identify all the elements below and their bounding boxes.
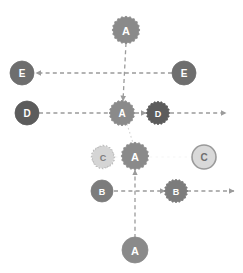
- node-a-center[interactable]: A: [109, 100, 135, 126]
- node-c-solid[interactable]: C: [192, 145, 216, 169]
- node-e-right[interactable]: E: [172, 61, 196, 85]
- node-shape-b-right: [164, 179, 188, 203]
- node-shape-a-bottom: [122, 237, 148, 263]
- edges-layer: [36, 43, 234, 238]
- node-b-right[interactable]: B: [164, 179, 188, 203]
- node-shape-b-left: [91, 180, 113, 202]
- node-shape-d-right: [146, 101, 170, 125]
- node-shape-e-left: [10, 61, 34, 85]
- node-a-bottom[interactable]: A: [122, 237, 148, 263]
- node-d-right[interactable]: D: [146, 101, 170, 125]
- node-shape-d-left: [15, 101, 39, 125]
- edge-a-top-to-a-center: [123, 43, 126, 101]
- node-shape-e-right: [172, 61, 196, 85]
- diagram-svg: AEEDADCACBBA: [0, 0, 243, 273]
- node-c-ghost[interactable]: C: [91, 145, 115, 169]
- diagram-canvas: AEEDADCACBBA: [0, 0, 243, 273]
- node-a-top[interactable]: A: [112, 16, 140, 44]
- node-shape-c-solid: [192, 145, 216, 169]
- edge-a-center-to-a-mid: [127, 124, 133, 143]
- node-e-left[interactable]: E: [10, 61, 34, 85]
- node-shape-a-center: [109, 100, 135, 126]
- node-shape-c-ghost: [91, 145, 115, 169]
- node-a-mid[interactable]: A: [121, 142, 149, 170]
- nodes-layer: AEEDADCACBBA: [10, 16, 216, 263]
- node-shape-a-mid: [121, 142, 149, 170]
- node-shape-a-top: [112, 16, 140, 44]
- node-d-left[interactable]: D: [15, 101, 39, 125]
- node-b-left[interactable]: B: [91, 180, 113, 202]
